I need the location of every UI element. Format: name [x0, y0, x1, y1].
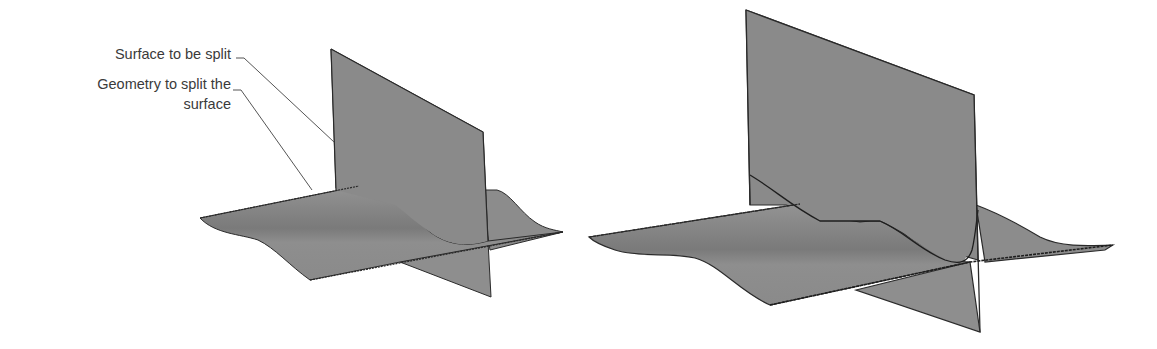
callout-geometry-to-split: Geometry to split the surface	[97, 74, 231, 114]
callout-geometry-line-1: Geometry to split the	[97, 74, 231, 94]
callout-geometry-line-2: surface	[97, 94, 231, 114]
leader-line-geometry	[233, 90, 312, 190]
callout-surface-to-be-split: Surface to be split	[115, 44, 231, 64]
panel-after	[589, 10, 1113, 332]
diagram-canvas: Surface to be split Geometry to split th…	[0, 0, 1157, 349]
panel-before	[200, 49, 563, 297]
leader-line-surface	[236, 58, 334, 142]
split-surface-back-right	[976, 205, 1113, 262]
